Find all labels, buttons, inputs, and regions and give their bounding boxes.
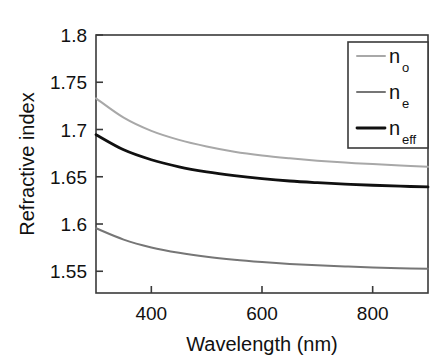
y-tick-label: 1.7	[61, 120, 87, 141]
legend-label-n_e: n	[389, 81, 400, 103]
legend-label-n_eff: n	[389, 117, 400, 139]
y-tick-label: 1.65	[50, 167, 87, 188]
figure-container: 1.551.61.651.71.751.8 400600800 Refracti…	[0, 0, 447, 364]
y-axis-title: Refractive index	[16, 92, 38, 235]
y-tick-label: 1.8	[61, 25, 87, 46]
legend-subscript-n_o: o	[402, 60, 409, 75]
x-tick-label: 800	[357, 303, 389, 324]
x-tick-label: 400	[135, 303, 167, 324]
y-tick-label: 1.75	[50, 72, 87, 93]
x-tick-label: 600	[246, 303, 278, 324]
y-tick-label: 1.55	[50, 261, 87, 282]
x-axis-title: Wavelength (nm)	[186, 333, 338, 355]
dispersion-chart: 1.551.61.651.71.751.8 400600800 Refracti…	[0, 0, 447, 364]
y-tick-label: 1.6	[61, 214, 87, 235]
legend[interactable]: noneneff	[348, 42, 428, 148]
legend-subscript-n_eff: eff	[402, 132, 417, 147]
legend-label-n_o: n	[389, 45, 400, 67]
legend-subscript-n_e: e	[402, 96, 409, 111]
